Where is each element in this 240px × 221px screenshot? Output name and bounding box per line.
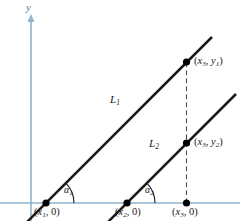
paren-close: ) (219, 136, 223, 147)
point-label-x1-0: (x1, 0) (34, 207, 60, 218)
angle-label-alpha2-sub: 2 (150, 189, 153, 196)
coord-sub: 1 (42, 211, 46, 219)
angle-label-alpha2: α2 (145, 185, 154, 195)
paren-close: ) (137, 206, 141, 217)
coord-sub: 3 (202, 141, 206, 149)
coord-sub: 3 (180, 211, 184, 219)
point-marker-x3-y1 (183, 58, 190, 65)
point-label-x3-y1: (x3, y1) (194, 56, 223, 67)
figure-container: y L1 L2 α1 α2 (x1, 0) (x2, 0) (x3, 0) (x… (0, 0, 240, 221)
y-axis-label: y (26, 2, 31, 13)
line-L2 (79, 94, 236, 221)
diagram-canvas (0, 0, 240, 221)
paren-close: ) (219, 55, 223, 66)
angle-label-alpha1-sub: 1 (69, 189, 72, 196)
coord-second-sub: 2 (216, 141, 220, 149)
angle-label-alpha1: α1 (64, 185, 73, 195)
point-label-x2-0: (x2, 0) (115, 207, 141, 218)
line-label-L2: L2 (149, 138, 159, 149)
y-axis-arrowhead (28, 14, 35, 22)
paren-close: ) (56, 206, 60, 217)
paren-close: ) (194, 206, 198, 217)
coord-second-sub: 1 (216, 60, 220, 68)
coord-sub: 3 (202, 60, 206, 68)
coord-second: y (211, 136, 216, 147)
point-marker-x3-y2 (183, 139, 190, 146)
point-label-x3-0: (x3, 0) (172, 207, 198, 218)
coord-second: y (211, 55, 216, 66)
line-label-L1: L1 (110, 94, 120, 105)
coord-sub: 2 (123, 211, 127, 219)
line-label-L2-sub: 2 (155, 142, 159, 151)
line-label-L1-sub: 1 (116, 98, 120, 107)
point-label-x3-y2: (x3, y2) (194, 137, 223, 148)
